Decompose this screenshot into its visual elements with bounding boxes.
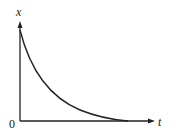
y-axis-arrow-icon [18, 21, 23, 28]
origin-label: 0 [9, 117, 15, 131]
x-axis-arrow-icon [148, 119, 155, 124]
decay-graph: x t 0 [0, 0, 181, 136]
y-axis-label: x [15, 5, 22, 19]
x-axis-label: t [158, 115, 162, 129]
decay-curve [20, 30, 128, 121]
